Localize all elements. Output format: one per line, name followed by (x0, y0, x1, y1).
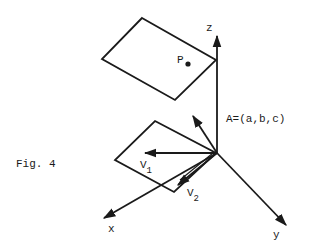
point-p-label: P (177, 54, 184, 66)
upper-plane (102, 18, 216, 100)
lower-plane (115, 121, 216, 192)
z-axis-label: z (206, 22, 213, 34)
point-p-dot (185, 61, 190, 66)
v2-vector (178, 153, 217, 185)
diagram-canvas: P z x y A=(a,b,c) V1 V2 Fig. 4 (0, 0, 310, 248)
x-axis-label: x (108, 223, 115, 235)
y-axis-label: y (273, 229, 280, 241)
figure-caption: Fig. 4 (16, 158, 56, 170)
v2-label: V2 (187, 187, 199, 204)
v2-vector-edge (180, 153, 213, 180)
normal-vector-label: A=(a,b,c) (226, 113, 285, 125)
y-axis (217, 153, 286, 225)
v1-label: V1 (140, 159, 152, 176)
